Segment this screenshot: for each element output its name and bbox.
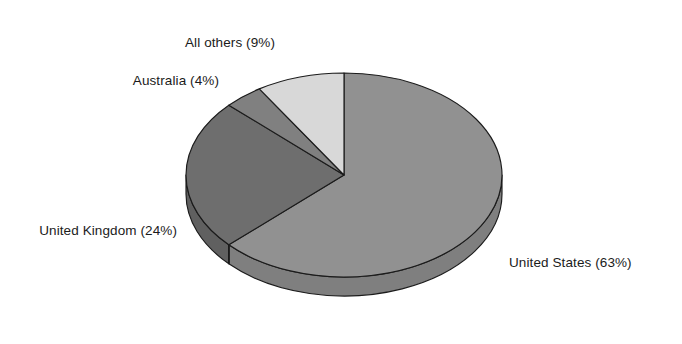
slice-label-united-kingdom: United Kingdom (24%) (39, 223, 177, 238)
pie-chart-svg: All others (9%) Australia (4%) United Ki… (0, 0, 682, 344)
pie-chart-figure: All others (9%) Australia (4%) United Ki… (0, 0, 682, 344)
slice-label-all-others: All others (9%) (185, 35, 275, 50)
slice-label-australia: Australia (4%) (133, 73, 219, 88)
pie-3d-group (186, 73, 502, 296)
slice-label-united-states: United States (63%) (509, 255, 632, 270)
